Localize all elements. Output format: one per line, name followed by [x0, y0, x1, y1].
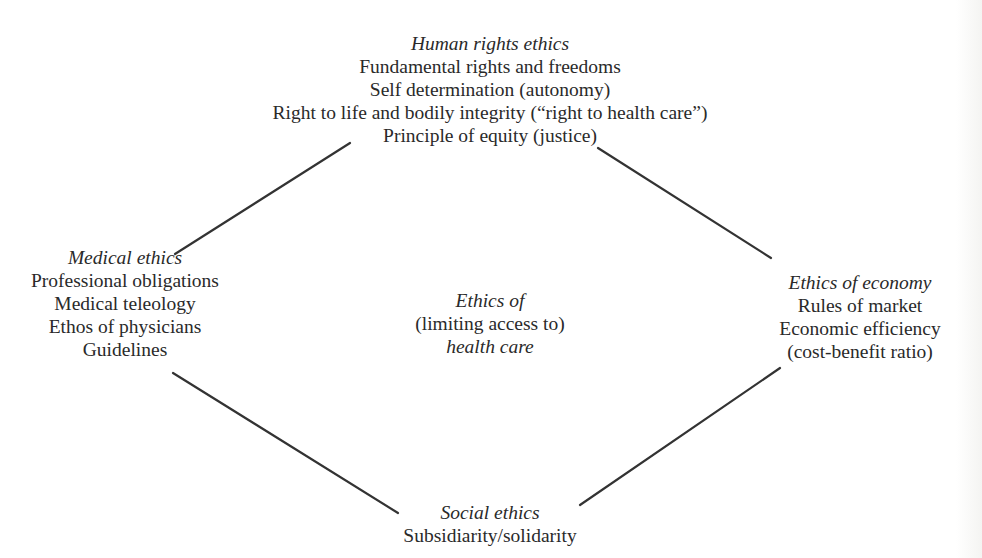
node-title: Human rights ethics	[240, 32, 740, 55]
center-line: health care	[390, 335, 590, 358]
node-item: Subsidiarity/solidarity	[340, 524, 640, 547]
node-item: Professional obligations	[0, 269, 250, 292]
node-ethics-of-economy: Ethics of economy Rules of market Econom…	[760, 271, 960, 363]
connector-medical-to-social	[173, 373, 398, 513]
node-medical-ethics: Medical ethics Professional obligations …	[0, 246, 250, 361]
node-center-ethics-of-health-care: Ethics of (limiting access to) health ca…	[390, 289, 590, 358]
node-title: Social ethics	[340, 501, 640, 524]
node-item: Medical teleology	[0, 292, 250, 315]
connector-medical-to-human-rights	[175, 143, 350, 254]
node-item: Fundamental rights and freedoms	[240, 55, 740, 78]
node-title: Medical ethics	[0, 246, 250, 269]
node-title: Ethics of economy	[760, 271, 960, 294]
node-item: Principle of equity (justice)	[240, 124, 740, 147]
node-item: Economic efficiency	[760, 317, 960, 340]
node-item: Guidelines	[0, 338, 250, 361]
node-item: Ethos of physicians	[0, 315, 250, 338]
connector-social-to-economy	[580, 368, 780, 505]
node-human-rights-ethics: Human rights ethics Fundamental rights a…	[240, 32, 740, 147]
node-item: Rules of market	[760, 294, 960, 317]
connector-human-rights-to-economy	[598, 148, 771, 258]
center-line: Ethics of	[390, 289, 590, 312]
node-item: (cost-benefit ratio)	[760, 340, 960, 363]
node-social-ethics: Social ethics Subsidiarity/solidarity	[340, 501, 640, 547]
center-line: (limiting access to)	[390, 312, 590, 335]
node-item: Self determination (autonomy)	[240, 78, 740, 101]
node-item: Right to life and bodily integrity (“rig…	[240, 101, 740, 124]
